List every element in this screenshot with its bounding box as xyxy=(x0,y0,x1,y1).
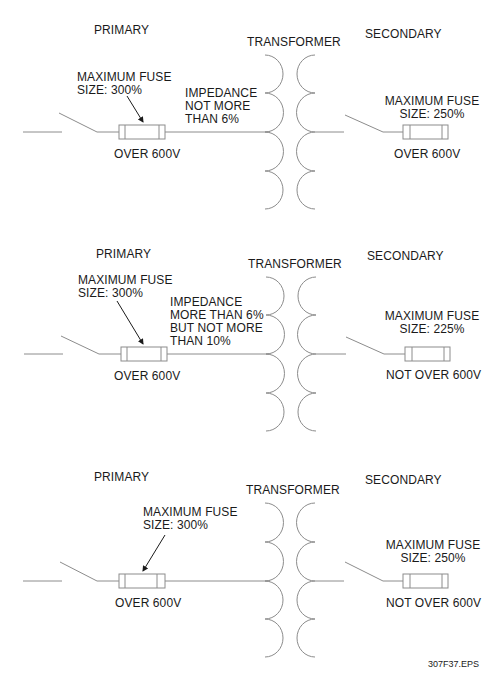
secondary-fuse-icon xyxy=(403,574,448,588)
impedance-label: IMPEDANCE NOT MORE THAN 6% xyxy=(185,87,257,126)
figure-id-label: 307F37.EPS xyxy=(428,659,479,669)
secondary-fuse-label: MAXIMUM FUSE SIZE: 225% xyxy=(372,310,492,336)
primary-fuse-icon xyxy=(121,347,167,361)
secondary-label: SECONDARY xyxy=(367,250,444,263)
primary-voltage-label: OVER 600V xyxy=(114,370,180,383)
transformer-label: TRANSFORMER xyxy=(248,258,342,271)
secondary-fuse-icon xyxy=(405,347,450,361)
fuse-callout-arrow xyxy=(143,535,165,571)
primary-label: PRIMARY xyxy=(94,471,149,484)
transformer-label: TRANSFORMER xyxy=(246,484,340,497)
secondary-label: SECONDARY xyxy=(365,28,442,41)
impedance-label: IMPEDANCE MORE THAN 6% BUT NOT MORE THAN… xyxy=(170,296,264,348)
secondary-coil-icon xyxy=(297,55,315,209)
secondary-coil-icon xyxy=(297,503,315,657)
secondary-fuse-icon xyxy=(403,125,448,139)
secondary-voltage-label: NOT OVER 600V xyxy=(386,597,481,610)
secondary-fuse-label: MAXIMUM FUSE SIZE: 250% xyxy=(372,95,492,121)
secondary-switch-blade xyxy=(346,337,384,354)
secondary-fuse-label: MAXIMUM FUSE SIZE: 250% xyxy=(373,539,493,565)
fuse-callout-arrow xyxy=(117,301,143,344)
primary-switch-blade xyxy=(60,562,97,581)
secondary-voltage-label: NOT OVER 600V xyxy=(386,369,481,382)
primary-coil-icon xyxy=(266,277,284,431)
primary-fuse-label: MAXIMUM FUSE SIZE: 300% xyxy=(77,71,172,97)
primary-switch-blade xyxy=(59,113,97,132)
secondary-coil-icon xyxy=(298,277,316,431)
fuse-callout-arrow xyxy=(127,96,143,122)
primary-fuse-label: MAXIMUM FUSE SIZE: 300% xyxy=(78,274,173,300)
secondary-voltage-label: OVER 600V xyxy=(394,148,460,161)
primary-coil-icon xyxy=(265,55,283,209)
secondary-label: SECONDARY xyxy=(365,474,442,487)
primary-coil-icon xyxy=(265,503,283,657)
transformer-label: TRANSFORMER xyxy=(247,36,341,49)
primary-voltage-label: OVER 600V xyxy=(114,148,180,161)
primary-fuse-icon xyxy=(119,125,165,139)
primary-switch-blade xyxy=(61,336,99,354)
primary-fuse-icon xyxy=(119,574,165,588)
primary-voltage-label: OVER 600V xyxy=(115,597,181,610)
primary-label: PRIMARY xyxy=(96,248,151,261)
primary-fuse-label: MAXIMUM FUSE SIZE: 300% xyxy=(143,506,238,532)
primary-label: PRIMARY xyxy=(94,24,149,37)
